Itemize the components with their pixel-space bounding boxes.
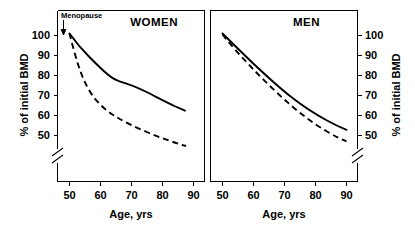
panel-men-ytick-90: 90: [365, 49, 377, 61]
panel-women-ytick-80: 80: [38, 69, 50, 81]
panel-men-ytick-70: 70: [365, 89, 377, 101]
panel-men-ytick-50: 50: [365, 129, 377, 141]
panel-men-axis-break-icon: [352, 148, 363, 163]
women-dashed-curve: [70, 34, 187, 147]
panel-women-title: WOMEN: [130, 16, 178, 28]
panel-women-xtick-80: 80: [156, 189, 168, 201]
women-solid-curve: [70, 34, 186, 111]
chart-canvas: 100 90 80 70 60 50 50 60 70 80 90 Age, y…: [0, 0, 415, 231]
panel-men-ytick-60: 60: [365, 109, 377, 121]
panel-women-ytick-60: 60: [38, 109, 50, 121]
panel-women-ylabel: % of initial BMD: [18, 53, 30, 136]
panel-women-xlabel: Age, yrs: [109, 208, 152, 220]
panel-women-ytick-50: 50: [38, 129, 50, 141]
panel-men: 100 90 80 70 60 50 50 60 70 80 90 Age, y…: [211, 11, 403, 221]
men-solid-curve: [223, 34, 347, 130]
panel-women-xtick-60: 60: [94, 189, 106, 201]
panel-men-title: MEN: [293, 16, 320, 28]
panel-women-ytick-70: 70: [38, 89, 50, 101]
panel-men-xtick-80: 80: [309, 189, 321, 201]
panel-women-axis-break-icon: [52, 148, 63, 163]
panel-women-xtick-50: 50: [63, 189, 75, 201]
panel-men-ylabel: % of initial BMD: [390, 53, 402, 136]
menopause-annotation-label: Menopause: [61, 11, 102, 20]
bmd-age-figure: 100 90 80 70 60 50 50 60 70 80 90 Age, y…: [0, 0, 415, 231]
panel-men-frame: [211, 11, 358, 182]
panel-women-xtick-70: 70: [125, 189, 137, 201]
panel-men-ytick-100: 100: [365, 29, 383, 41]
panel-women-ytick-100: 100: [32, 29, 50, 41]
panel-men-x-ticks: [223, 182, 347, 187]
panel-men-xlabel: Age, yrs: [262, 208, 305, 220]
panel-women-ytick-90: 90: [38, 49, 50, 61]
panel-women-x-ticks: [70, 182, 194, 187]
panel-men-xtick-60: 60: [247, 189, 259, 201]
panel-men-ytick-80: 80: [365, 69, 377, 81]
panel-men-xtick-90: 90: [340, 189, 352, 201]
menopause-arrow-icon: [61, 20, 66, 35]
panel-women: 100 90 80 70 60 50 50 60 70 80 90 Age, y…: [18, 11, 205, 221]
panel-men-xtick-70: 70: [278, 189, 290, 201]
panel-women-y-ticks: [54, 36, 58, 136]
panel-men-y-ticks: [358, 36, 362, 136]
panel-women-frame: [58, 11, 205, 182]
panel-men-xtick-50: 50: [216, 189, 228, 201]
panel-women-xtick-90: 90: [187, 189, 199, 201]
